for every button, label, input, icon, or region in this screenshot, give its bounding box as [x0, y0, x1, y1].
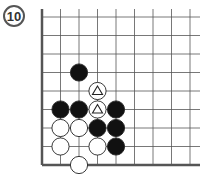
black-stone[interactable]: [89, 119, 106, 136]
black-stone[interactable]: [107, 119, 124, 136]
white-stone[interactable]: [52, 138, 69, 155]
black-stone[interactable]: [52, 101, 69, 118]
white-stone[interactable]: [70, 119, 87, 136]
white-stone[interactable]: [52, 119, 69, 136]
black-stone[interactable]: [70, 64, 87, 81]
black-stone[interactable]: [107, 101, 124, 118]
go-board[interactable]: [0, 0, 210, 175]
black-stone[interactable]: [70, 101, 87, 118]
black-stone[interactable]: [107, 138, 124, 155]
white-stone[interactable]: [70, 156, 87, 173]
white-stone[interactable]: [89, 138, 106, 155]
